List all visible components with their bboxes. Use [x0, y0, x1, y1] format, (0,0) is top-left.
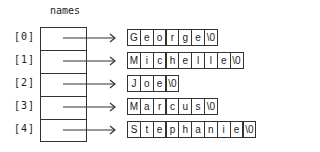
string-michelle: M i c h e l l e \0 [127, 52, 242, 69]
arrow-icon [63, 126, 115, 134]
arrow-icon [63, 34, 115, 42]
null-terminator-cell: \0 [204, 29, 218, 46]
string-george: G e o r g e \0 [127, 29, 217, 46]
string-joe: J o e \0 [127, 75, 178, 92]
string-stephanie: S t e p h a n i e \0 [127, 121, 255, 138]
null-terminator-cell: \0 [230, 52, 244, 69]
null-terminator-cell: \0 [242, 121, 256, 138]
arrow-icon [63, 103, 115, 111]
arrow-icon [63, 57, 115, 65]
null-terminator-cell: \0 [204, 98, 218, 115]
null-terminator-cell: \0 [165, 75, 179, 92]
string-marcus: M a r c u s \0 [127, 98, 217, 115]
arrow-icon [63, 80, 115, 88]
